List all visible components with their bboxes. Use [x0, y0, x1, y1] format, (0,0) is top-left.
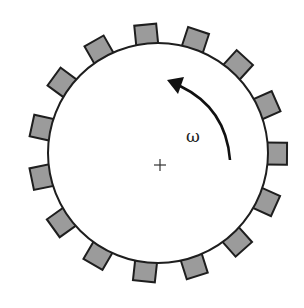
- gear-disk-diagram: [0, 0, 304, 308]
- omega-label: ω: [186, 126, 200, 146]
- rotating-disk: [48, 43, 268, 263]
